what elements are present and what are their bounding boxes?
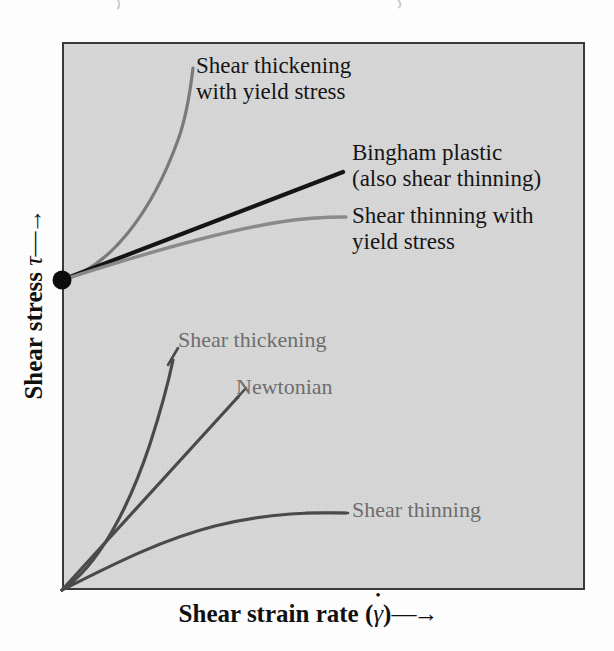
x-axis-title-text: Shear strain rate ( [179,600,374,627]
x-axis-title: Shear strain rate (γ)—→ [0,600,614,628]
label-shear-thickening: Shear thickening [178,328,326,353]
label-shear-thickening-with-yield-stress: Shear thickening with yield stress [196,53,351,105]
y-axis-arrow-icon: —→ [20,210,47,256]
y-axis-title-text: Shear stress [20,266,47,400]
label-shear-thinning: Shear thinning [352,498,481,523]
label-bingham-plastic: Bingham plastic (also shear thinning) [352,140,541,192]
gamma-dot-symbol: γ [373,600,383,628]
label-shear-thinning-with-yield-stress: Shear thinning with yield stress [352,203,533,255]
label-newtonian: Newtonian [236,375,333,400]
rheology-figure: Shear thickening with yield stress Bingh… [0,0,614,651]
y-axis-title: Shear stress τ—→ [19,175,49,435]
tau-symbol: τ [19,256,48,265]
x-axis-arrow-icon: —→ [391,600,435,627]
plot-area [62,42,585,590]
